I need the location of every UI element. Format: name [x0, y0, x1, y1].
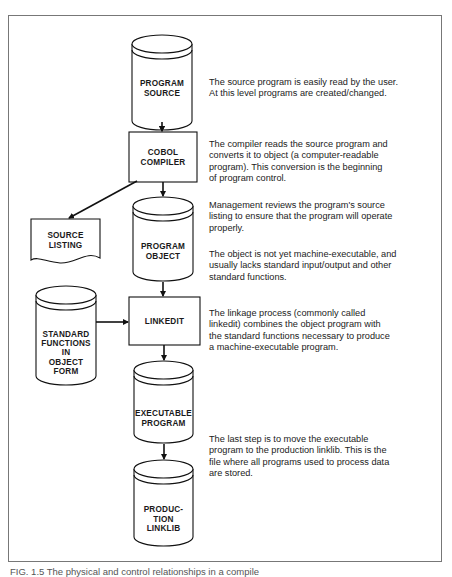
executable-program-label: EXECUTABLE PROGRAM — [131, 409, 196, 428]
description-object: The object is not yet machine-executable… — [209, 249, 396, 283]
program-object-cylinder — [133, 197, 193, 281]
arrow-compiler-to-listing — [69, 181, 137, 218]
description-linkage: The linkage process (commonly called lin… — [209, 308, 390, 353]
description-review: Management reviews the program's source … — [209, 200, 392, 234]
executable-program-cylinder — [134, 361, 193, 443]
cobol-compiler-label: COBOL COMPILER — [129, 148, 197, 167]
source-listing-label: SOURCE LISTING — [31, 231, 100, 250]
description-last-step: The last step is to move the executable … — [209, 434, 389, 479]
standard-functions-label: STANDARD FUNCTIONS IN OBJECT FORM — [33, 330, 99, 376]
description-source: The source program is easily read by the… — [209, 77, 398, 100]
linkedit-label: LINKEDIT — [129, 317, 200, 327]
program-source-label: PROGRAM SOURCE — [132, 79, 192, 98]
description-compiler: The compiler reads the source program an… — [209, 139, 388, 184]
figure-caption: FIG. 1.5 The physical and control relati… — [10, 566, 259, 577]
production-linklib-label: PRODUC- TION LINKLIB — [134, 505, 193, 534]
program-object-label: PROGRAM OBJECT — [133, 242, 193, 261]
